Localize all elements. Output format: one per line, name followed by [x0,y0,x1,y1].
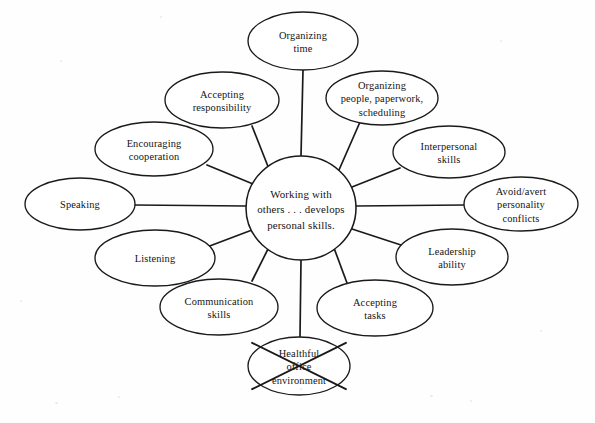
spoke-line-interpersonal-skills [352,168,400,187]
node-interpersonal-skills[interactable]: Interpersonalskills [393,126,505,178]
node-ellipse-organizing-time [248,12,358,70]
spoke-line-organizing-time [301,70,303,156]
node-label-text: Speaking [60,199,100,210]
node-ellipse-communication-skills [160,279,278,335]
node-label-text: Avoid/avertpersonalityconflicts [496,186,547,223]
spoke-line-communication-skills [252,249,268,281]
node-leadership-ability[interactable]: Leadershipability [396,229,508,285]
node-listening[interactable]: Listening [95,230,215,286]
node-communication-skills[interactable]: Communicationskills [160,279,278,335]
node-organizing-people-paperwork-scheduling[interactable]: Organizingpeople, paperwork,scheduling [326,71,438,125]
node-accepting-responsibility[interactable]: Acceptingresponsibility [165,72,279,128]
spoke-line-avoid-avert-personality-conflicts [356,205,464,206]
node-healthful-office-environment[interactable]: Healthfulofficeenvironment [248,337,350,395]
node-ellipse-leadership-ability [396,229,508,285]
node-ellipse-interpersonal-skills [393,126,505,178]
node-ellipse-accepting-responsibility [165,72,279,128]
node-label-text: Listening [135,253,176,264]
node-ellipse-accepting-tasks [317,280,433,336]
node-label-text: Working withothers . . . developspersona… [257,188,345,231]
spoke-line-accepting-tasks [334,248,347,283]
spoke-line-organizing-people-paperwork-scheduling [339,122,360,170]
node-speaking[interactable]: Speaking [25,178,135,230]
spoke-line-encouraging-cooperation [207,165,253,184]
center-node-group: Working withothers . . . developspersona… [246,156,356,260]
node-ellipse-encouraging-cooperation [95,122,213,176]
spoke-line-speaking [134,205,246,206]
node-organizing-time[interactable]: Organizingtime [248,12,358,70]
spoke-line-healthful-office-environment [300,260,301,337]
spoke-line-listening [207,230,252,247]
cluster-diagram: OrganizingtimeOrganizingpeople, paperwor… [0,0,595,423]
node-avoid-avert-personality-conflicts[interactable]: Avoid/avertpersonalityconflicts [464,177,578,231]
node-accepting-tasks[interactable]: Acceptingtasks [317,280,433,336]
cluster-diagram-canvas: OrganizingtimeOrganizingpeople, paperwor… [0,0,595,423]
node-encouraging-cooperation[interactable]: Encouragingcooperation [95,122,213,176]
node-center[interactable]: Working withothers . . . developspersona… [246,156,356,260]
spoke-line-accepting-responsibility [252,126,269,169]
spoke-line-leadership-ability [349,228,404,246]
